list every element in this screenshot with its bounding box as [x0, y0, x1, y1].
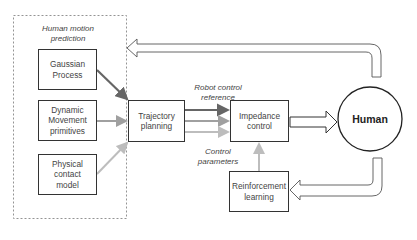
gaussian-process-box: Gaussian Process: [38, 49, 97, 90]
arrow-contact-to-trajectory: [97, 143, 127, 174]
arrow-human-to-prediction: [127, 39, 381, 77]
robot-control-reference-label: Robot control reference: [178, 83, 258, 103]
arrow-human-to-reinforcement: [290, 158, 382, 200]
physical-contact-model-box: Physical contact model: [38, 154, 97, 195]
control-parameters-label: Control parameters: [178, 147, 258, 167]
human-label: Human: [338, 87, 402, 151]
group-label: Human motion prediction: [20, 24, 116, 44]
dynamic-movement-primitives-box: Dynamic Movement primitives: [38, 100, 97, 141]
arrow-impedance-to-human: [290, 111, 337, 133]
arrow-gaussian-to-trajectory: [97, 70, 127, 99]
reinforcement-learning-box: Reinforcement learning: [229, 171, 289, 212]
trajectory-planning-box: Trajectory planning: [128, 100, 185, 142]
impedance-control-box: Impedance control: [230, 100, 289, 142]
